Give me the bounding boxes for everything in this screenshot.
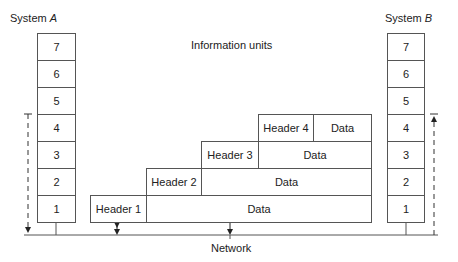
header-3: Header 3: [202, 142, 259, 168]
data-4: Data: [314, 115, 371, 141]
system-b-layer-4: 4: [387, 114, 425, 142]
data-1: Data: [147, 196, 371, 222]
system-b-layer-1: 1: [387, 195, 425, 223]
unit-layer-2: Header 2 Data: [146, 168, 372, 196]
system-b-layer-6: 6: [387, 60, 425, 88]
header-1: Header 1: [91, 196, 147, 222]
system-b-layer-5: 5: [387, 87, 425, 115]
system-b-layer-3: 3: [387, 141, 425, 169]
data-3: Data: [259, 142, 371, 168]
system-a-layer-2: 2: [37, 168, 76, 196]
system-a-layer-4: 4: [37, 114, 76, 142]
system-b-layer-2: 2: [387, 168, 425, 196]
header-2: Header 2: [147, 169, 202, 195]
data-2: Data: [202, 169, 371, 195]
unit-layer-1: Header 1 Data: [90, 195, 372, 223]
diagram-title: Information units: [191, 40, 272, 51]
send-path-arrow-icon: [24, 114, 32, 230]
system-a-label: System A: [10, 13, 57, 24]
header-4: Header 4: [259, 115, 314, 141]
system-a-label-prefix: System: [10, 12, 50, 24]
system-a-label-var: A: [50, 12, 57, 24]
osi-encapsulation-diagram: System A System B Information units 7 6 …: [0, 0, 458, 262]
system-a-layer-3: 3: [37, 141, 76, 169]
receive-path-arrow-icon: [430, 114, 438, 235]
system-a-layer-1: 1: [37, 195, 76, 223]
system-a-layer-7: 7: [37, 33, 76, 61]
system-a-layer-5: 5: [37, 87, 76, 115]
unit-layer-3: Header 3 Data: [201, 141, 372, 169]
system-b-label: System B: [385, 13, 432, 24]
system-a-layer-6: 6: [37, 60, 76, 88]
system-b-layer-7: 7: [387, 33, 425, 61]
system-b-label-var: B: [425, 12, 432, 24]
unit-layer-4: Header 4 Data: [258, 114, 372, 142]
network-label: Network: [211, 243, 251, 254]
system-b-label-prefix: System: [385, 12, 425, 24]
